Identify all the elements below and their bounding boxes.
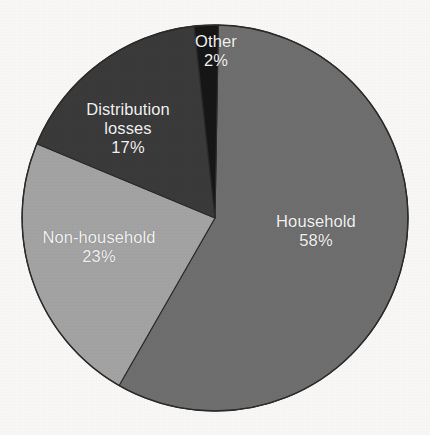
pie-slices-group [22,25,408,411]
pie-chart-canvas [0,0,430,435]
pie-chart-figure: Household 58% Non-household 23% Distribu… [0,0,430,435]
